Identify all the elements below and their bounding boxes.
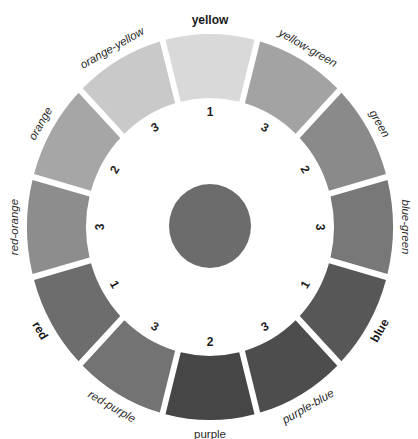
segment-label-blue-green: blue-green [400,200,412,255]
segment-number-blue: 1 [298,278,314,291]
segment-number-yellow: 1 [207,105,214,119]
segment-label-yellow: yellow [192,13,229,27]
segment-label-purple: purple [194,428,226,439]
segment-number-blue-green: 3 [313,224,327,231]
segment-label-red: red [30,319,51,342]
segment-number-green: 2 [298,163,314,176]
color-wheel: 132313231323 yellowyellow-greengreenblue… [0,0,418,439]
segment-number-red: 1 [107,278,123,291]
segment-label-blue: blue [368,316,393,345]
segment-red-orange [27,180,89,274]
segment-label-green: green [367,108,392,139]
segment-number-yellow-green: 3 [259,120,272,136]
center-disc [169,184,251,268]
segment-number-red-purple: 3 [149,319,162,335]
segment-number-purple-blue: 3 [259,319,272,335]
segment-purple [165,352,254,420]
segment-number-red-orange: 3 [93,223,107,230]
segment-number-orange: 2 [107,163,123,176]
segment-number-orange-yellow: 3 [149,120,162,136]
segment-yellow [165,34,254,102]
segment-number-purple: 2 [207,335,214,349]
segment-blue-green [331,180,393,274]
segment-label-red-orange: red-orange [8,199,20,255]
